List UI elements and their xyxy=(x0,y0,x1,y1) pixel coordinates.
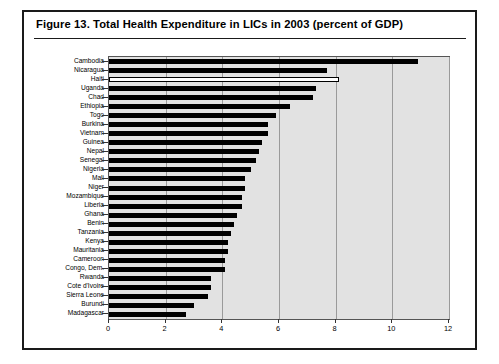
bar-ethiopia xyxy=(109,104,290,109)
bar-chart: CambodiaNicaraguaHaitiUgandaChadEthiopia… xyxy=(24,44,475,348)
y-axis-category-labels: CambodiaNicaraguaHaitiUgandaChadEthiopia… xyxy=(24,56,104,318)
bar-row xyxy=(109,303,449,308)
x-axis-tick-label: 4 xyxy=(211,324,231,333)
x-axis-tick xyxy=(278,319,279,323)
bar-row xyxy=(109,312,449,317)
bar-row xyxy=(109,113,449,118)
y-axis-label: Nicaragua xyxy=(22,67,104,73)
bar-row xyxy=(109,294,449,299)
y-axis-label: Ethiopia xyxy=(22,103,104,109)
y-axis-label: Niger xyxy=(22,184,104,190)
bar-mali xyxy=(109,176,245,181)
bar-row xyxy=(109,68,449,73)
y-axis-label: Nepal xyxy=(22,148,104,154)
bar-row xyxy=(109,231,449,236)
bar-cote-d-ivoire xyxy=(109,285,211,290)
x-axis-tick xyxy=(448,319,449,323)
bar-row xyxy=(109,186,449,191)
bar-togo xyxy=(109,113,276,118)
bar-uganda xyxy=(109,86,316,91)
bar-ghana xyxy=(109,213,237,218)
bar-senegal xyxy=(109,158,256,163)
bar-row xyxy=(109,213,449,218)
figure-title: Figure 13. Total Health Expenditure in L… xyxy=(36,18,466,30)
plot-area xyxy=(108,56,450,320)
x-axis-tick-label: 6 xyxy=(268,324,288,333)
y-axis-label: Cameroon xyxy=(22,256,104,262)
bar-haiti xyxy=(109,77,339,82)
bar-nepal xyxy=(109,149,259,154)
bar-cameroon xyxy=(109,258,225,263)
bar-rwanda xyxy=(109,276,211,281)
bar-row xyxy=(109,122,449,127)
y-axis-label: Benin xyxy=(22,220,104,226)
y-axis-label: Senegal xyxy=(22,157,104,163)
y-axis-label: Congo, Dem. xyxy=(22,265,104,271)
bar-mauritania xyxy=(109,249,228,254)
y-axis-label: Burundi xyxy=(22,301,104,307)
bar-cambodia xyxy=(109,59,418,64)
x-axis-tick-label: 12 xyxy=(438,324,458,333)
bar-row xyxy=(109,77,449,82)
bar-tanzania xyxy=(109,231,231,236)
bar-nigeria xyxy=(109,167,251,172)
x-axis-tick xyxy=(165,319,166,323)
bar-row xyxy=(109,267,449,272)
y-axis-label: Cote d'Ivoire xyxy=(22,283,104,289)
bar-mozambique xyxy=(109,195,242,200)
y-axis-label: Mozambique xyxy=(22,193,104,199)
bar-sierra-leone xyxy=(109,294,208,299)
bar-liberia xyxy=(109,204,242,209)
x-axis-tick-label: 2 xyxy=(155,324,175,333)
bar-kenya xyxy=(109,240,228,245)
bar-row xyxy=(109,204,449,209)
y-axis-label: Madagascar xyxy=(22,310,104,316)
bar-burkina xyxy=(109,122,268,127)
x-axis-tick xyxy=(335,319,336,323)
bar-row xyxy=(109,195,449,200)
bar-chad xyxy=(109,95,313,100)
bar-row xyxy=(109,240,449,245)
y-axis-label: Burkina xyxy=(22,121,104,127)
bar-row xyxy=(109,104,449,109)
bar-row xyxy=(109,131,449,136)
x-axis-tick xyxy=(391,319,392,323)
y-axis-label: Mauritania xyxy=(22,247,104,253)
bar-vietnam xyxy=(109,131,268,136)
y-axis-label: Tanzania xyxy=(22,229,104,235)
y-axis-label: Ghana xyxy=(22,211,104,217)
bar-row xyxy=(109,140,449,145)
bar-benin xyxy=(109,222,234,227)
bar-nicaragua xyxy=(109,68,327,73)
y-axis-label: Nigeria xyxy=(22,166,104,172)
title-divider xyxy=(34,38,466,39)
bar-row xyxy=(109,222,449,227)
bar-row xyxy=(109,176,449,181)
bar-guinea xyxy=(109,140,262,145)
gridline xyxy=(449,57,450,319)
y-axis-label: Sierra Leone xyxy=(22,292,104,298)
x-axis-tick-label: 8 xyxy=(325,324,345,333)
bar-row xyxy=(109,258,449,263)
bar-row xyxy=(109,59,449,64)
bar-row xyxy=(109,285,449,290)
y-axis-label: Rwanda xyxy=(22,274,104,280)
x-axis-tick-label: 10 xyxy=(381,324,401,333)
bar-row xyxy=(109,86,449,91)
y-axis-label: Chad xyxy=(22,94,104,100)
bar-row xyxy=(109,95,449,100)
y-axis-label: Vietnam xyxy=(22,130,104,136)
bar-row xyxy=(109,158,449,163)
x-axis-tick xyxy=(221,319,222,323)
bar-row xyxy=(109,167,449,172)
x-axis-tick-labels: 024681012 xyxy=(108,324,450,336)
bar-congo-dem xyxy=(109,267,225,272)
y-axis-label: Kenya xyxy=(22,238,104,244)
bar-row xyxy=(109,249,449,254)
x-axis-tick xyxy=(108,319,109,323)
y-axis-label: Cambodia xyxy=(22,58,104,64)
x-axis-tick-label: 0 xyxy=(98,324,118,333)
y-axis-label: Togo xyxy=(22,112,104,118)
bar-row xyxy=(109,276,449,281)
bar-niger xyxy=(109,186,245,191)
